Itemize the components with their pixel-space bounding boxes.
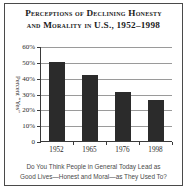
y-axis-tick-label: 0 bbox=[32, 138, 36, 146]
x-axis-category-label: 1998 bbox=[148, 146, 162, 154]
x-axis-tick bbox=[73, 142, 74, 145]
x-axis-tick bbox=[139, 142, 140, 145]
x-axis-tick bbox=[106, 142, 107, 145]
y-axis-tick bbox=[37, 79, 41, 80]
y-axis-tick-label: 20% bbox=[22, 106, 35, 114]
y-axis-tick-label: 40% bbox=[22, 75, 35, 83]
x-axis-category-label: 1965 bbox=[82, 146, 96, 154]
x-axis-category-label: 1976 bbox=[115, 146, 129, 154]
chart-caption-line-2: Good Lives—Honest and Moral—as They Used… bbox=[8, 172, 179, 181]
bar bbox=[82, 75, 98, 142]
chart-caption-line-1: Do You Think People in General Today Lea… bbox=[8, 162, 179, 171]
plot-area: 60%50%40%30%20%10%01952196519761998 bbox=[40, 47, 172, 142]
gridline bbox=[40, 47, 172, 48]
y-axis-tick-label: 30% bbox=[22, 91, 35, 99]
y-axis-tick-label: 50% bbox=[22, 59, 35, 67]
x-axis-category-label: 1952 bbox=[49, 146, 63, 154]
y-axis-tick bbox=[37, 126, 41, 127]
y-axis-tick bbox=[37, 142, 41, 143]
bar bbox=[49, 62, 65, 141]
y-axis-tick bbox=[37, 95, 41, 96]
x-axis-tick bbox=[172, 142, 173, 145]
chart-caption: Do You Think People in General Today Lea… bbox=[8, 162, 179, 181]
y-axis-tick bbox=[37, 63, 41, 64]
y-axis-tick bbox=[37, 110, 41, 111]
y-axis-tick-label: 60% bbox=[22, 43, 35, 51]
y-axis-tick-label: 10% bbox=[22, 122, 35, 130]
y-axis-tick bbox=[37, 47, 41, 48]
chart-figure: Perceptions of Declining Honesty and Mor… bbox=[0, 0, 187, 190]
bar bbox=[115, 92, 131, 141]
bar bbox=[148, 100, 164, 141]
